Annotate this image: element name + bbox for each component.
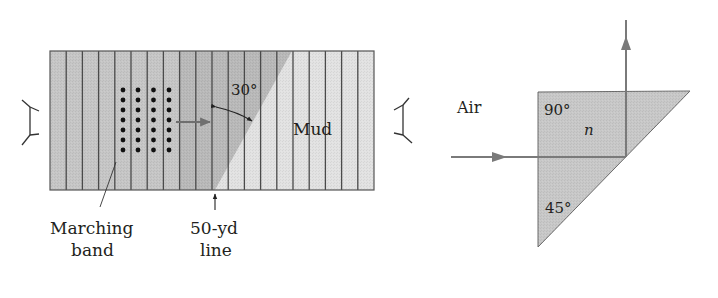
midline-label-line1: 50-yd — [190, 218, 238, 238]
acute-angle-label: 45° — [545, 199, 572, 217]
band-member-dot — [151, 98, 156, 103]
band-member-dot — [151, 108, 156, 113]
band-member-dot — [151, 138, 156, 143]
band-member-dot — [121, 128, 126, 133]
band-member-dot — [151, 88, 156, 93]
band-member-dot — [167, 118, 172, 123]
band-member-dot — [167, 138, 172, 143]
band-member-dot — [121, 118, 126, 123]
band-member-dot — [121, 148, 126, 153]
band-member-dot — [136, 148, 141, 153]
right-angle-label: 90° — [544, 101, 571, 119]
band-label-line2: band — [71, 240, 114, 260]
band-member-dot — [167, 148, 172, 153]
band-member-dot — [121, 98, 126, 103]
diagram-svg: 30° Mud Marching band 50-yd line — [0, 0, 718, 298]
band-member-dot — [121, 108, 126, 113]
refractive-index-label: n — [584, 121, 594, 139]
band-member-dot — [136, 98, 141, 103]
band-member-dot — [136, 128, 141, 133]
angle-label-30: 30° — [231, 81, 258, 99]
band-member-dot — [167, 88, 172, 93]
band-member-dot — [136, 108, 141, 113]
band-member-dot — [167, 98, 172, 103]
band-member-dot — [121, 88, 126, 93]
band-member-dot — [151, 128, 156, 133]
band-member-dot — [151, 118, 156, 123]
figure-canvas: 30° Mud Marching band 50-yd line — [0, 0, 718, 298]
band-member-dot — [136, 138, 141, 143]
reflected-ray-arrowhead-icon — [621, 36, 631, 50]
goalpost-right — [394, 98, 412, 143]
midline-label-line2: line — [200, 240, 232, 260]
band-member-dot — [167, 108, 172, 113]
band-member-dot — [151, 148, 156, 153]
band-member-dot — [136, 88, 141, 93]
band-member-dot — [167, 128, 172, 133]
goalpost-left — [22, 100, 39, 145]
mud-label: Mud — [293, 119, 332, 139]
band-member-dot — [136, 118, 141, 123]
incident-ray-arrowhead-icon — [492, 152, 507, 162]
band-label-line1: Marching — [50, 218, 134, 238]
air-label: Air — [456, 98, 482, 117]
band-member-dot — [121, 138, 126, 143]
